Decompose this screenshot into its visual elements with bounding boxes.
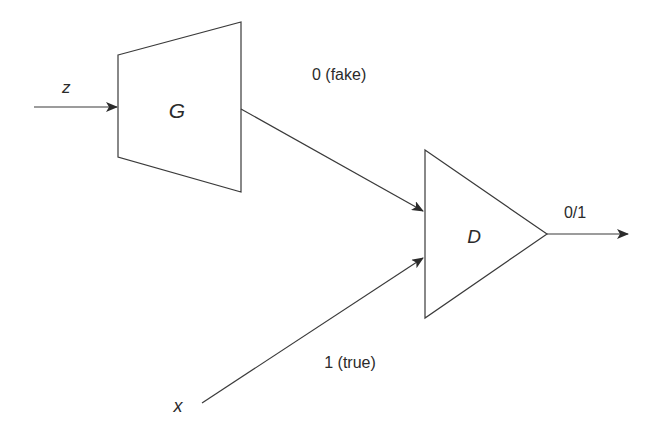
- arrow-true-icon: [202, 258, 423, 403]
- discriminator-node: D: [425, 150, 547, 318]
- discriminator-label: D: [467, 226, 481, 247]
- edge-x-to-d: [202, 258, 423, 403]
- input-z-label: z: [61, 78, 71, 97]
- edge-true-label: 1 (true): [324, 354, 376, 371]
- edge-fake-label: 0 (fake): [312, 66, 366, 83]
- generator-label: G: [169, 99, 185, 122]
- output-label: 0/1: [564, 204, 586, 221]
- gan-diagram: z G 0 (fake) D 1 (true) x 0/1: [0, 0, 659, 436]
- triangle-shape-icon: [425, 150, 547, 318]
- edge-g-to-d: [241, 109, 423, 211]
- generator-node: G: [118, 22, 241, 192]
- input-x-label: x: [173, 396, 184, 416]
- arrow-fake-icon: [241, 109, 423, 211]
